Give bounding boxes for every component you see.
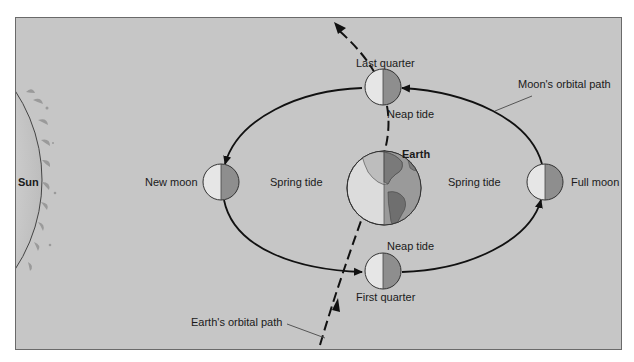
full-moon-label: Full moon <box>571 176 619 188</box>
first-quarter-label: First quarter <box>356 291 415 303</box>
new-moon-label: New moon <box>145 176 198 188</box>
moon-orbit-leader-line <box>495 96 532 111</box>
spring-tide-right-label: Spring tide <box>448 176 501 188</box>
sun-label: Sun <box>18 176 39 188</box>
moon-full-icon <box>527 164 563 200</box>
moons-orbital-path-label: Moon's orbital path <box>518 78 611 90</box>
moon-last-quarter-icon <box>365 69 401 105</box>
earths-orbital-path-label: Earth's orbital path <box>191 316 282 328</box>
neap-tide-top-label: Neap tide <box>387 108 434 120</box>
last-quarter-label: Last quarter <box>356 57 415 69</box>
earth-label: Earth <box>402 148 430 160</box>
earth-icon <box>347 150 424 230</box>
moon-first-quarter-icon <box>365 253 401 289</box>
moon-new-icon <box>203 164 239 200</box>
earth-orbit-leader-line <box>287 324 325 338</box>
neap-tide-bottom-label: Neap tide <box>387 240 434 252</box>
spring-tide-left-label: Spring tide <box>270 176 323 188</box>
